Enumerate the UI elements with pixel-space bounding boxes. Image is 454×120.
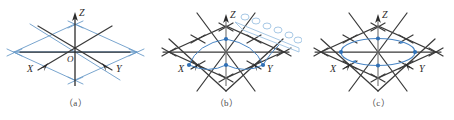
panel-c: X Y Z （c）	[303, 0, 454, 120]
node	[261, 63, 265, 67]
panel-a: X Y Z O （a）	[0, 0, 151, 120]
figure-container: X Y Z O （a）	[0, 0, 454, 120]
axis-label-y: Y	[267, 63, 274, 74]
node	[376, 36, 380, 40]
helix-circle-icon	[263, 23, 271, 29]
panel-c-caption: （c）	[303, 96, 454, 109]
origin-label: O	[67, 54, 74, 64]
axis-label-y: Y	[419, 63, 426, 74]
helix-circle-icon	[274, 27, 282, 33]
axis-label-z: Z	[382, 9, 388, 20]
panel-a-drawing: X Y Z O	[0, 0, 151, 100]
axis-label-x: X	[177, 63, 185, 74]
axis-label-x: X	[329, 63, 337, 74]
panel-b-drawing: X Y Z	[151, 0, 302, 100]
axis-label-z: Z	[230, 9, 236, 20]
node	[187, 63, 191, 67]
axis-label-z: Z	[79, 7, 85, 18]
helix-circle-icon	[285, 32, 293, 38]
panel-a-caption: （a）	[0, 96, 151, 109]
node	[413, 50, 417, 54]
panel-b-caption: （b）	[151, 96, 302, 109]
helix-circle-icon	[241, 14, 249, 20]
helix-chain-b	[235, 14, 302, 52]
axis-label-y: Y	[116, 63, 123, 74]
axis-label-x: X	[26, 63, 34, 74]
node	[376, 63, 380, 67]
helix-circle-icon	[294, 37, 302, 43]
node	[224, 37, 228, 41]
panel-b: X Y Z （b）	[151, 0, 302, 120]
panel-c-drawing: X Y Z	[303, 0, 454, 100]
node	[224, 63, 228, 67]
helix-circle-icon	[252, 18, 260, 24]
node	[339, 50, 343, 54]
